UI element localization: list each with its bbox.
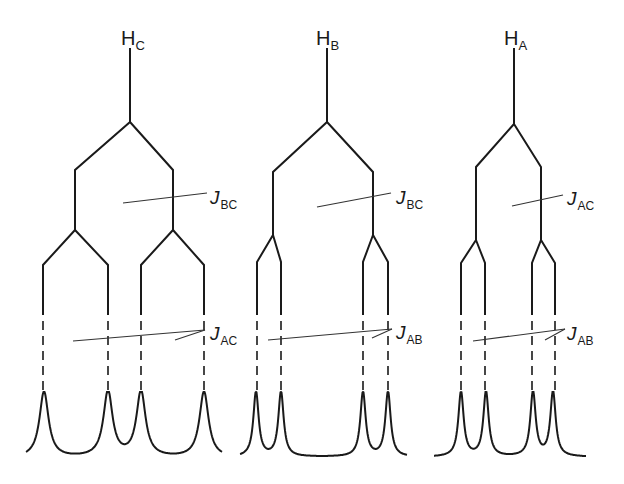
nucleus-subscript: C <box>135 38 144 53</box>
coupling-label-ha-first: JAC <box>567 189 594 208</box>
second-splitting-branch <box>141 230 204 315</box>
second-splitting-branch <box>363 235 388 315</box>
coupling-symbol: J <box>396 322 406 343</box>
first-splitting-branch <box>476 48 541 240</box>
coupling-symbol: J <box>567 188 577 209</box>
coupling-leader-line <box>123 193 207 203</box>
coupling-subscript: AC <box>578 199 595 213</box>
coupling-subscript: AC <box>221 334 238 348</box>
coupling-label-hb-second: JAB <box>396 323 423 342</box>
nucleus-subscript: A <box>518 38 527 53</box>
coupling-subscript: BC <box>221 198 238 212</box>
nucleus-label-ha: HA <box>504 28 527 48</box>
coupling-leader-line <box>473 329 565 341</box>
spectrum-multiplet <box>434 392 586 456</box>
coupling-symbol: J <box>567 323 577 344</box>
coupling-leader-line <box>317 193 391 207</box>
splitting-tree-diagram <box>0 0 624 484</box>
nucleus-symbol: H <box>504 27 518 49</box>
spectrum-multiplet <box>26 392 222 454</box>
coupling-leader-line <box>268 329 392 340</box>
nucleus-label-hb: HB <box>316 28 339 48</box>
splitting-tree-hb <box>240 48 407 456</box>
nucleus-subscript: B <box>330 38 339 53</box>
coupling-leader-line <box>73 330 205 341</box>
second-splitting-branch <box>257 235 281 315</box>
nucleus-symbol: H <box>316 27 330 49</box>
coupling-label-ha-second: JAB <box>567 324 594 343</box>
coupling-label-hb-first: JBC <box>396 188 423 207</box>
second-splitting-branch <box>43 230 108 315</box>
first-splitting-branch <box>273 48 373 235</box>
coupling-subscript: BC <box>407 198 424 212</box>
coupling-symbol: J <box>210 323 220 344</box>
coupling-symbol: J <box>396 187 406 208</box>
nucleus-symbol: H <box>121 27 135 49</box>
splitting-tree-ha <box>434 48 586 456</box>
coupling-symbol: J <box>210 187 220 208</box>
spectrum-multiplet <box>240 392 407 456</box>
second-splitting-branch <box>532 236 555 315</box>
coupling-leader-line <box>512 195 563 206</box>
splitting-tree-hc <box>26 48 222 454</box>
coupling-label-hc-second: JAC <box>210 324 237 343</box>
coupling-label-hc-first: JBC <box>210 188 237 207</box>
second-splitting-branch <box>461 236 485 315</box>
coupling-subscript: AB <box>407 333 423 347</box>
coupling-subscript: AB <box>578 334 594 348</box>
nucleus-label-hc: HC <box>121 28 145 48</box>
